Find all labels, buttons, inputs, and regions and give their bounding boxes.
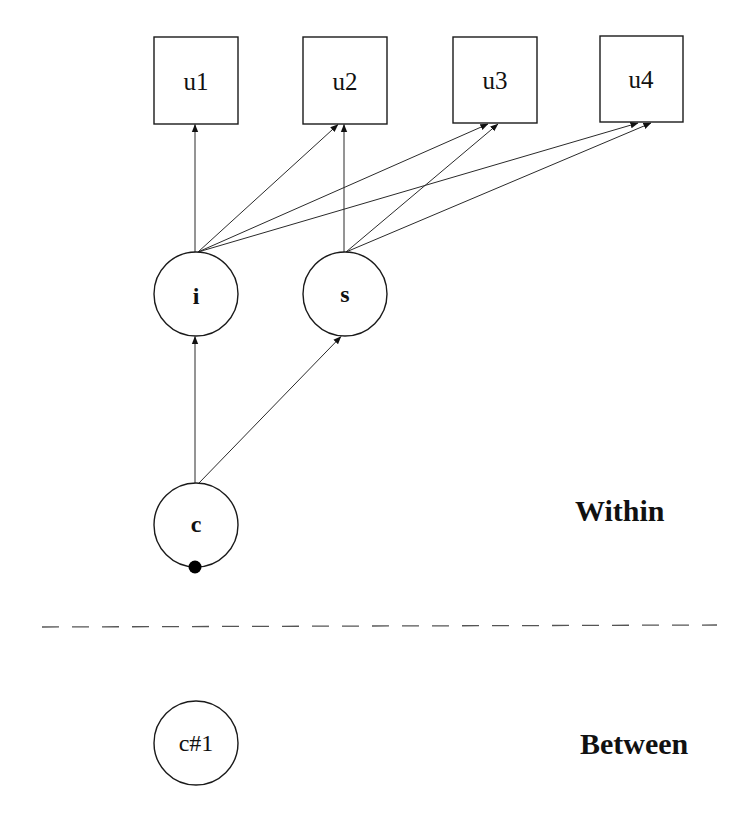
- label-u2: u2: [333, 68, 358, 95]
- section-label-between: Between: [580, 727, 689, 760]
- label-u4: u4: [629, 66, 655, 93]
- section-label-within: Within: [575, 494, 665, 527]
- latent-class-c: c: [154, 483, 238, 574]
- observed-u3: u3: [453, 37, 537, 123]
- between-c1: c#1: [154, 701, 238, 785]
- latent-s: s: [303, 252, 387, 336]
- edge-s-u3: [346, 124, 498, 252]
- observed-u2: u2: [303, 37, 387, 124]
- label-s: s: [340, 281, 349, 307]
- edge-c-s: [199, 337, 341, 484]
- observed-u1: u1: [154, 37, 238, 124]
- label-c: c: [191, 511, 202, 537]
- path-diagram: u1 u2 u3 u4 i s c Within c#1 Between: [0, 0, 751, 826]
- edge-i-u2: [198, 125, 338, 253]
- label-u1: u1: [184, 68, 209, 95]
- observed-u4: u4: [600, 36, 683, 122]
- level-divider: [42, 625, 717, 627]
- edge-s-u4: [346, 123, 651, 252]
- label-u3: u3: [483, 67, 508, 94]
- latent-i: i: [154, 252, 238, 336]
- label-i: i: [193, 283, 200, 309]
- label-c1: c#1: [179, 730, 214, 756]
- random-intercept-dot-icon: [189, 561, 202, 574]
- edge-i-u3: [198, 124, 488, 252]
- edge-i-u4: [198, 123, 638, 252]
